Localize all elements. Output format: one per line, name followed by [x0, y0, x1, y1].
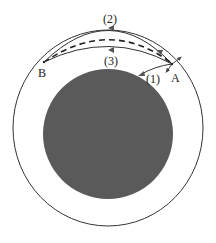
label-path-2: (2) — [103, 12, 117, 26]
label-point-a: A — [171, 71, 180, 85]
path-3-arrow-icon — [108, 47, 114, 53]
point-a — [171, 63, 173, 65]
path-1-arrow-icon — [138, 71, 145, 76]
label-point-b: B — [38, 66, 46, 80]
planet-disk — [43, 69, 173, 199]
point-b — [43, 61, 45, 63]
label-path-3: (3) — [104, 54, 118, 68]
label-path-1: (1) — [146, 72, 160, 86]
orbit-diagram: (2) (3) (1) A B — [0, 0, 216, 243]
